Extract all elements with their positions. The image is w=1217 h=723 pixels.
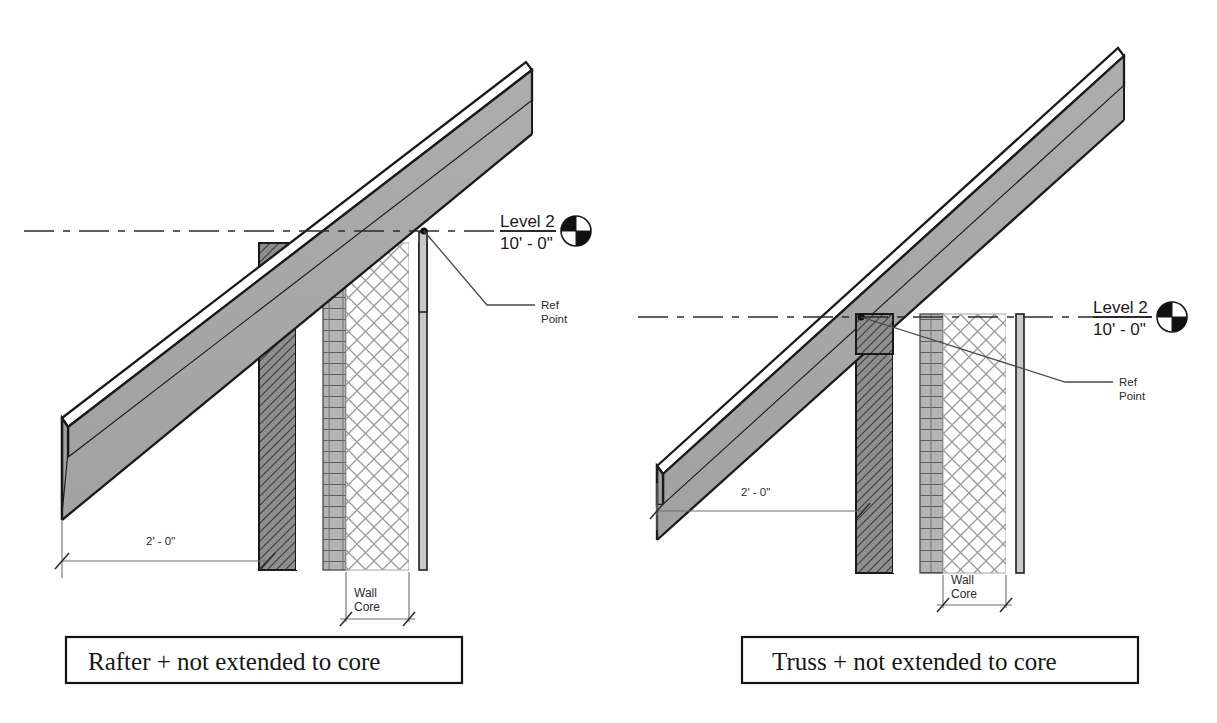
detail-truss: Level 2 10' - 0" Ref Point 2' - 0" Wal: [638, 48, 1187, 683]
ref-point-label-line2-right: Point: [1119, 390, 1146, 402]
wall-layer-air-gap-right: [893, 314, 920, 573]
architectural-detail-canvas: Level 2 10' - 0" Ref Point 2' - 0": [0, 0, 1217, 723]
wall-core-label-line1-left: Wall: [354, 586, 377, 600]
overhang-dimension-label-left: 2' - 0": [146, 535, 175, 547]
wall-core-dimension-left: Wall Core: [340, 572, 415, 626]
wall-top-over-roof-left: [419, 232, 427, 312]
wall-core-label-line2-left: Core: [354, 600, 380, 614]
level-elevation-label-right: 10' - 0": [1093, 320, 1146, 339]
ref-point-label-line1-right: Ref: [1119, 376, 1138, 388]
drawing-sheet: Level 2 10' - 0" Ref Point 2' - 0": [0, 0, 1217, 723]
level-name-label-left: Level 2: [500, 212, 555, 231]
caption-box-right: Truss + not extended to core: [742, 637, 1138, 683]
caption-box-left: Rafter + not extended to core: [66, 637, 462, 683]
wall-core-label-line1-right: Wall: [951, 573, 974, 587]
quadrant-circle-icon: [561, 216, 591, 246]
wall-layer-core: [346, 243, 409, 570]
caption-label-right: Truss + not extended to core: [772, 648, 1057, 675]
wall-layer-masonry-block-right: [920, 314, 943, 573]
ref-point-label-line2-left: Point: [541, 313, 568, 325]
ref-point-label-line1-left: Ref: [541, 299, 560, 311]
wall-layer-interior-finish-right: [1016, 314, 1024, 573]
level-marker-right[interactable]: Level 2 10' - 0": [1093, 298, 1187, 339]
level-name-label-right: Level 2: [1093, 298, 1148, 317]
wall-core-label-line2-right: Core: [951, 587, 977, 601]
detail-rafter: Level 2 10' - 0" Ref Point 2' - 0": [24, 62, 591, 683]
level-elevation-label-left: 10' - 0": [500, 234, 553, 253]
wall-core-dimension-right: Wall Core: [937, 573, 1012, 612]
caption-label-left: Rafter + not extended to core: [88, 648, 380, 675]
quadrant-circle-icon-right: [1157, 302, 1187, 332]
overhang-dimension-label-right: 2' - 0": [741, 486, 770, 498]
level-marker-left[interactable]: Level 2 10' - 0": [500, 212, 591, 253]
